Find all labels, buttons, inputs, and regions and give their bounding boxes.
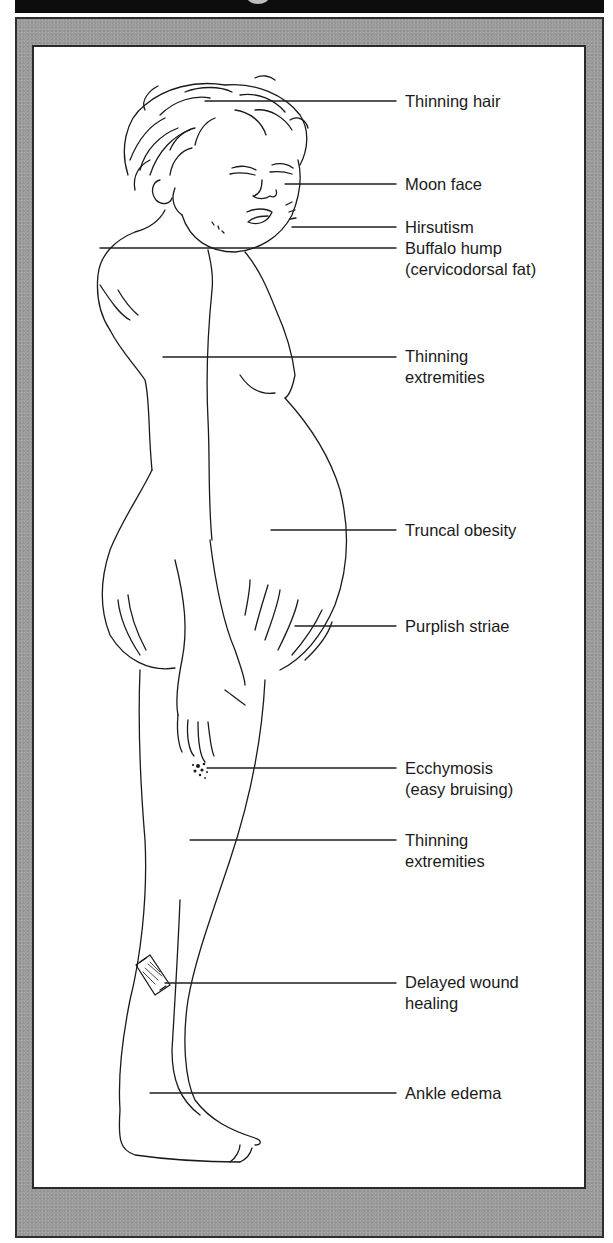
arm-hand-illustration — [175, 540, 245, 762]
label-text: healing — [405, 993, 519, 1014]
label-delayed-wound-healing: Delayed wound healing — [405, 972, 519, 1014]
label-ankle-edema: Ankle edema — [405, 1083, 501, 1104]
label-buffalo-hump: Buffalo hump (cervicodorsal fat) — [405, 238, 536, 280]
label-text: Ecchymosis — [405, 758, 513, 779]
label-text: Truncal obesity — [405, 520, 516, 541]
label-hirsutism: Hirsutism — [405, 217, 474, 238]
legs-illustration — [119, 670, 265, 1162]
label-truncal-obesity: Truncal obesity — [405, 520, 516, 541]
bruise-illustration — [192, 763, 208, 779]
label-thinning-hair: Thinning hair — [405, 91, 500, 112]
label-text: Buffalo hump — [405, 238, 536, 259]
label-text: Thinning hair — [405, 91, 500, 112]
label-text: extremities — [405, 367, 485, 388]
hair-illustration — [124, 76, 308, 190]
label-moon-face: Moon face — [405, 174, 482, 195]
label-thinning-extremities-upper: Thinning extremities — [405, 346, 485, 388]
label-text: Hirsutism — [405, 217, 474, 238]
label-text: Delayed wound — [405, 972, 519, 993]
label-text: Ankle edema — [405, 1083, 501, 1104]
label-ecchymosis: Ecchymosis (easy bruising) — [405, 758, 513, 800]
cushing-figure-illustration — [0, 0, 613, 1243]
label-thinning-extremities-lower: Thinning extremities — [405, 830, 485, 872]
label-text: Moon face — [405, 174, 482, 195]
label-text: extremities — [405, 851, 485, 872]
label-text: (cervicodorsal fat) — [405, 259, 536, 280]
label-text: Thinning — [405, 346, 485, 367]
torso-illustration — [98, 210, 347, 670]
label-text: Purplish striae — [405, 616, 510, 637]
bandage-illustration — [136, 955, 170, 995]
label-purplish-striae: Purplish striae — [405, 616, 510, 637]
moon-face-illustration — [153, 160, 300, 252]
label-text: Thinning — [405, 830, 485, 851]
label-text: (easy bruising) — [405, 779, 513, 800]
